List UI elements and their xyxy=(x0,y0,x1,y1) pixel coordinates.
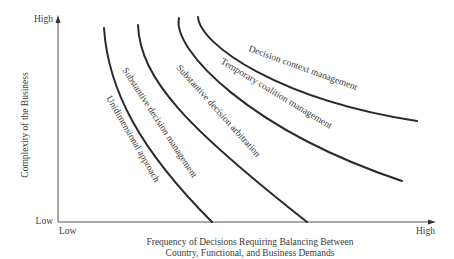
x-axis-arrow-icon xyxy=(428,220,436,225)
y-axis-title: Complexity of the Business xyxy=(20,72,30,178)
y-axis-high-label: High xyxy=(34,14,53,24)
x-axis-title-line2: Country, Functional, and Business Demand… xyxy=(166,248,335,258)
y-axis-arrow-icon xyxy=(56,15,61,23)
x-axis-title-line1: Frequency of Decisions Requiring Balanci… xyxy=(146,237,353,247)
x-axis-high-label: High xyxy=(416,226,435,236)
axes xyxy=(56,15,437,225)
diagram-canvas: High Low Complexity of the Business Low … xyxy=(0,0,454,259)
y-axis-low-label: Low xyxy=(36,216,54,226)
x-axis-low-label: Low xyxy=(59,226,77,236)
